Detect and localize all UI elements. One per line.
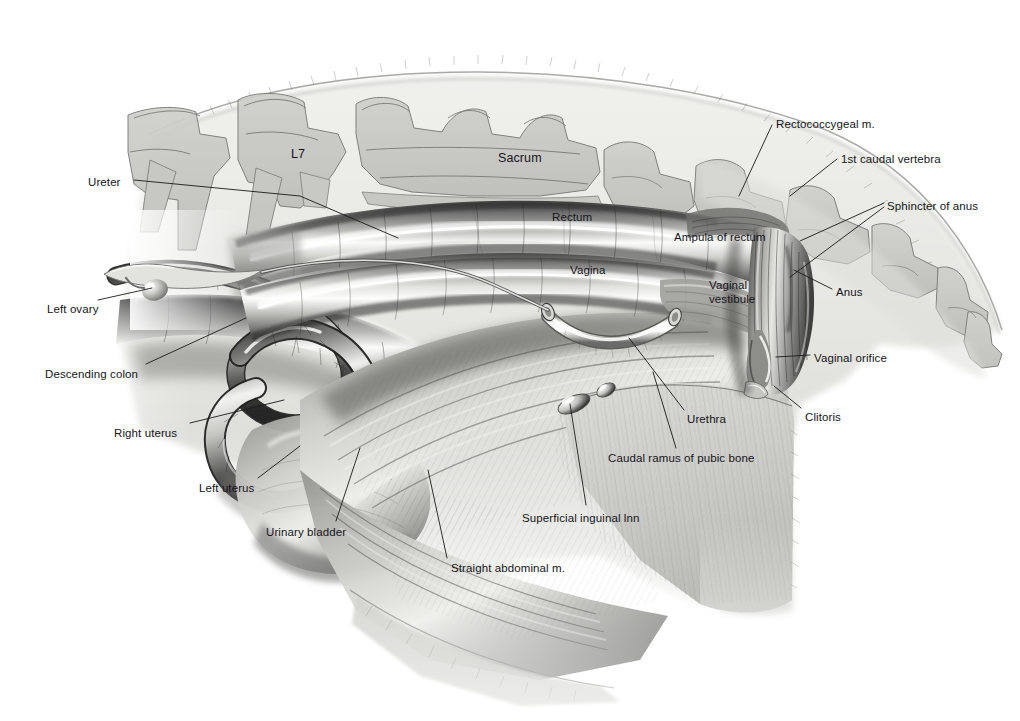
anatomy-figure-plate: UreterL7SacrumRectococcygeal m.1st cauda… (0, 0, 1020, 721)
label-vaginal_vestibule: Vaginal vestibule (709, 279, 761, 306)
label-ampula_rectum: Ampula of rectum (674, 231, 766, 244)
label-caudal_ramus: Caudal ramus of pubic bone (608, 452, 754, 465)
label-right_uterus: Right uterus (114, 427, 177, 440)
label-urinary_bladder: Urinary bladder (266, 526, 346, 539)
label-ureter: Ureter (88, 176, 121, 189)
label-rectum: Rectum (552, 211, 592, 224)
label-urethra: Urethra (687, 413, 726, 426)
label-clitoris: Clitoris (805, 411, 841, 424)
label-sphincter_anus: Sphincter of anus (887, 200, 978, 213)
label-sacrum: Sacrum (498, 152, 542, 165)
label-rectococcygeal: Rectococcygeal m. (776, 118, 875, 131)
label-l7: L7 (291, 148, 305, 161)
label-vaginal_orifice: Vaginal orifice (814, 352, 887, 365)
label-caudal_vertebra: 1st caudal vertebra (841, 153, 941, 166)
label-vagina: Vagina (570, 264, 606, 277)
label-sup_inguinal_lnn: Superficial inguinal lnn (522, 512, 639, 525)
label-left_uterus: Left uterus (199, 482, 254, 495)
label-straight_abdominal: Straight abdominal m. (451, 562, 565, 575)
label-anus: Anus (836, 286, 863, 299)
label-descending_colon: Descending colon (45, 368, 138, 381)
label-left_ovary: Left ovary (47, 303, 99, 316)
